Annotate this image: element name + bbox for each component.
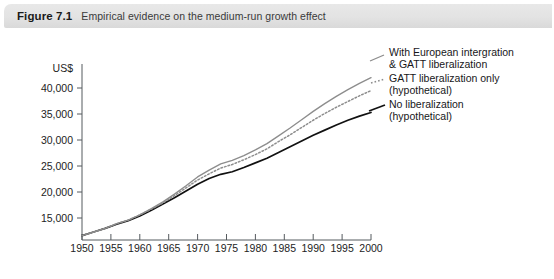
figure-container: Figure 7.1 Empirical evidence on the med… xyxy=(0,0,554,279)
legend-label-gatt-only-line2: (hypothetical) xyxy=(389,84,452,96)
series-line-no-liberalization xyxy=(82,112,371,235)
legend-label-no-liberalization-line1: No liberalization xyxy=(389,98,464,110)
figure-title-bar: Figure 7.1 Empirical evidence on the med… xyxy=(4,4,552,28)
legend-label-european-integration-line2: & GATT liberalization xyxy=(389,58,487,70)
chart-series-group xyxy=(82,78,371,236)
y-tick-label: 30,000 xyxy=(41,134,73,146)
legend-item-no-liberalization: No liberalization (hypothetical) xyxy=(369,98,464,122)
legend-swatch-solid-black-icon xyxy=(369,105,385,111)
x-tick-label: 1980 xyxy=(244,242,268,254)
y-axis-ticks: 15,00020,00025,00030,00035,00040,000 xyxy=(41,82,82,224)
x-tick-label: 2000 xyxy=(359,242,383,254)
x-axis-ticks: 1950195519601965197019751980198519901995… xyxy=(70,234,383,254)
series-line-european-integration-gatt xyxy=(82,78,371,236)
x-tick-label: 1965 xyxy=(157,242,181,254)
x-tick-label: 1950 xyxy=(70,242,94,254)
figure-caption: Empirical evidence on the medium-run gro… xyxy=(81,10,326,22)
x-tick-label: 1975 xyxy=(215,242,239,254)
line-chart: US$ 15,00020,00025,00030,00035,00040,000… xyxy=(0,28,554,279)
legend-label-gatt-only-line1: GATT liberalization only xyxy=(389,72,500,84)
x-tick-label: 1985 xyxy=(273,242,297,254)
legend-swatch-dotted-gray-icon xyxy=(371,79,385,83)
legend-item-gatt-only: GATT liberalization only (hypothetical) xyxy=(371,72,500,96)
legend-label-european-integration-line1: With European intergration xyxy=(389,46,514,58)
y-tick-label: 35,000 xyxy=(41,108,73,120)
x-tick-label: 1955 xyxy=(99,242,123,254)
y-tick-label: 15,000 xyxy=(41,212,73,224)
y-axis-unit-label: US$ xyxy=(53,62,74,74)
chart-legend: With European intergration & GATT libera… xyxy=(369,46,514,122)
y-tick-label: 25,000 xyxy=(41,160,73,172)
legend-label-no-liberalization-line2: (hypothetical) xyxy=(389,110,452,122)
x-tick-label: 1995 xyxy=(330,242,354,254)
x-tick-label: 1960 xyxy=(128,242,152,254)
chart-plot-area: US$ 15,00020,00025,00030,00035,00040,000… xyxy=(0,28,554,279)
x-tick-label: 1990 xyxy=(302,242,326,254)
x-tick-label: 1970 xyxy=(186,242,210,254)
legend-swatch-solid-gray-icon xyxy=(370,55,384,61)
y-tick-label: 40,000 xyxy=(41,82,73,94)
series-line-gatt-only xyxy=(82,91,371,236)
y-tick-label: 20,000 xyxy=(41,186,73,198)
figure-number: Figure 7.1 xyxy=(17,10,72,22)
legend-item-european-integration-gatt: With European intergration & GATT libera… xyxy=(370,46,514,70)
